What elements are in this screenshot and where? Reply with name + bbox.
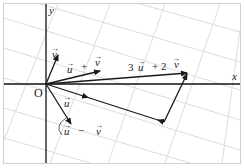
vec-arrow-icon: → [63,121,71,130]
vec-arrow-icon: → [137,57,145,66]
origin-label: O [34,86,43,100]
x-axis-label: x [231,70,237,82]
label-big-3: 3 [128,61,134,73]
vec-arrow-icon: → [63,93,71,102]
label-big-plus: + 2 [152,60,166,72]
vec-arrow-icon: → [95,121,103,130]
vec-arrow-icon: → [172,54,180,63]
vector-diagram: y x O v → u → + v → 3 u → + 2 v → u → u … [0,0,244,168]
vec-arrow-icon: → [66,59,74,68]
vec-arrow-icon: → [94,52,102,61]
label-umv-minus: − [78,124,84,136]
label-upv-plus: + [81,60,87,72]
y-axis-label: y [48,4,54,16]
diagram-canvas: y x O v → u → + v → 3 u → + 2 v → u → u … [0,0,244,168]
vec-arrow-icon: → [51,44,59,53]
